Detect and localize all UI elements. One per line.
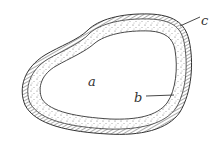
- leader-line-c: [180, 17, 200, 26]
- cell-diagram: a b c: [0, 0, 223, 151]
- label-a: a: [88, 74, 96, 89]
- label-c: c: [201, 13, 209, 28]
- inner-region-a: [40, 31, 176, 119]
- label-b: b: [134, 90, 142, 105]
